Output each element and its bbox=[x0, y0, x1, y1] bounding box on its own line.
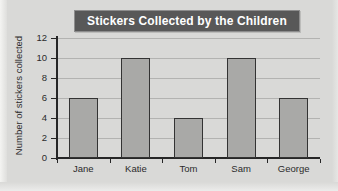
x-tick-label-katie: Katie bbox=[110, 163, 163, 174]
chart-title: Stickers Collected by the Children bbox=[87, 14, 287, 28]
y-tick-label: 10 bbox=[29, 52, 47, 63]
x-tick-label-sam: Sam bbox=[215, 163, 268, 174]
chart-title-banner: Stickers Collected by the Children bbox=[74, 10, 300, 32]
y-tick-mark bbox=[51, 58, 57, 59]
page-edge-left bbox=[0, 0, 7, 191]
gridline bbox=[57, 78, 320, 79]
bar-katie[interactable] bbox=[121, 58, 150, 158]
y-tick-label: 6 bbox=[29, 92, 47, 103]
y-tick-label: 2 bbox=[29, 132, 47, 143]
x-tick-label-jane: Jane bbox=[57, 163, 110, 174]
x-tick-mark bbox=[320, 159, 321, 163]
y-tick-mark bbox=[51, 78, 57, 79]
bar-sam[interactable] bbox=[227, 58, 256, 158]
y-tick-label: 0 bbox=[29, 152, 47, 163]
y-tick-label: 12 bbox=[29, 32, 47, 43]
y-tick-mark bbox=[51, 118, 57, 119]
y-tick-mark bbox=[51, 138, 57, 139]
y-tick-mark bbox=[51, 98, 57, 99]
y-tick-label: 8 bbox=[29, 72, 47, 83]
gridline bbox=[57, 58, 320, 59]
y-tick-mark bbox=[51, 38, 57, 39]
x-tick-label-george: George bbox=[267, 163, 320, 174]
y-axis-label: Number of stickers collected bbox=[11, 34, 27, 156]
page-edge-right bbox=[332, 0, 338, 191]
y-axis-label-text: Number of stickers collected bbox=[14, 35, 25, 154]
gridline bbox=[57, 38, 320, 39]
x-tick-label-tom: Tom bbox=[162, 163, 215, 174]
bar-tom[interactable] bbox=[174, 118, 203, 158]
bar-george[interactable] bbox=[279, 98, 308, 158]
page-edge-bottom bbox=[0, 182, 338, 191]
bar-jane[interactable] bbox=[69, 98, 98, 158]
chart-figure: Stickers Collected by the Children Numbe… bbox=[0, 0, 338, 191]
y-tick-label: 4 bbox=[29, 112, 47, 123]
